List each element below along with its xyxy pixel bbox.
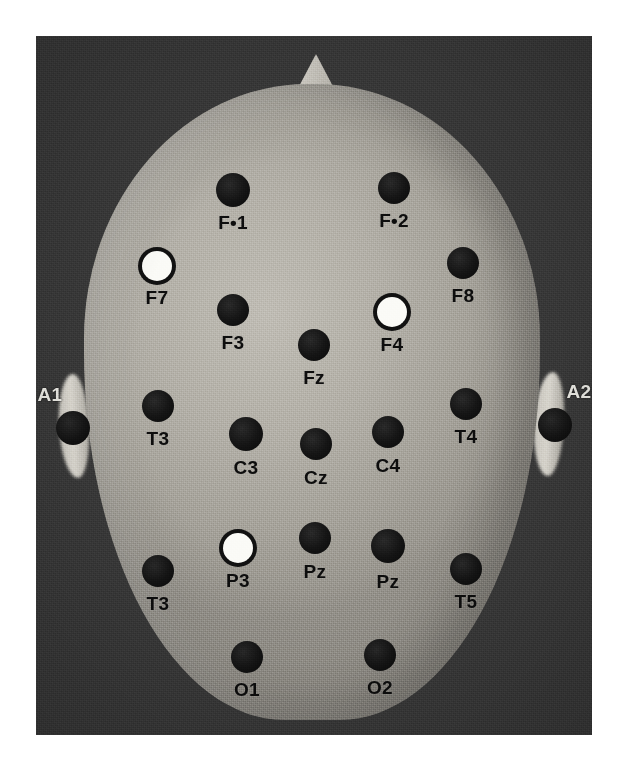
electrode-label-T3-9: T3 [147, 429, 170, 448]
electrode-label-Cz-13: Cz [304, 468, 328, 487]
electrode-F2-1[interactable] [378, 172, 410, 204]
electrode-layer: F•1F•2F7F8F3F4FzA1A2T3T4C3C4CzT3T5P3PzPz… [36, 36, 592, 735]
electrode-label-F8-3: F8 [452, 286, 475, 305]
electrode-T3-14[interactable] [142, 555, 174, 587]
electrode-Pz-17[interactable] [299, 522, 331, 554]
figure-canvas: F•1F•2F7F8F3F4FzA1A2T3T4C3C4CzT3T5P3PzPz… [0, 0, 619, 762]
eeg-head-photograph: F•1F•2F7F8F3F4FzA1A2T3T4C3C4CzT3T5P3PzPz… [36, 36, 592, 735]
electrode-label-C3-11: C3 [234, 458, 259, 477]
electrode-label-O2-20: O2 [367, 678, 393, 697]
electrode-F4-5[interactable] [377, 297, 407, 327]
electrode-label-F7-2: F7 [146, 288, 169, 307]
electrode-Fz-6[interactable] [298, 329, 330, 361]
electrode-label-Fz-6: Fz [303, 368, 325, 387]
electrode-F8-3[interactable] [447, 247, 479, 279]
electrode-A1-7[interactable] [56, 411, 90, 445]
electrode-A2-8[interactable] [538, 408, 572, 442]
electrode-T3-9[interactable] [142, 390, 174, 422]
electrode-label-A2-8: A2 [567, 382, 592, 401]
electrode-Cz-13[interactable] [300, 428, 332, 460]
electrode-label-A1-7: A1 [38, 385, 63, 404]
electrode-label-F2-1: F•2 [379, 211, 409, 230]
electrode-T5-15[interactable] [450, 553, 482, 585]
electrode-label-T4-10: T4 [455, 427, 478, 446]
electrode-label-F4-5: F4 [381, 335, 404, 354]
electrode-label-T3-14: T3 [147, 594, 170, 613]
electrode-O2-20[interactable] [364, 639, 396, 671]
electrode-label-F1-0: F•1 [218, 213, 248, 232]
electrode-F1-0[interactable] [216, 173, 250, 207]
electrode-label-F3-4: F3 [222, 333, 245, 352]
electrode-label-Pz-17: Pz [304, 562, 327, 581]
electrode-label-C4-12: C4 [376, 456, 401, 475]
electrode-F7-2[interactable] [142, 251, 172, 281]
electrode-label-P3-16: P3 [226, 571, 250, 590]
electrode-O1-19[interactable] [231, 641, 263, 673]
electrode-C3-11[interactable] [229, 417, 263, 451]
electrode-P3-16[interactable] [223, 533, 253, 563]
electrode-label-T5-15: T5 [455, 592, 478, 611]
electrode-label-Pz-18: Pz [377, 572, 400, 591]
electrode-C4-12[interactable] [372, 416, 404, 448]
electrode-T4-10[interactable] [450, 388, 482, 420]
electrode-Pz-18[interactable] [371, 529, 405, 563]
electrode-F3-4[interactable] [217, 294, 249, 326]
electrode-label-O1-19: O1 [234, 680, 260, 699]
